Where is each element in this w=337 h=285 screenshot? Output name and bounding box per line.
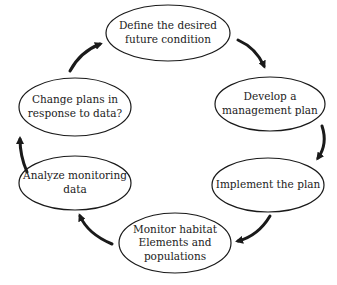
node-monitor-label: Monitor habitat Elements and populations bbox=[119, 213, 231, 273]
node-develop-label: Develop a management plan bbox=[215, 77, 325, 131]
node-define-label: Define the desired future condition bbox=[106, 5, 230, 61]
node-implement-label: Implement the plan bbox=[212, 158, 324, 212]
arrow-change-to-define bbox=[70, 44, 100, 71]
arrow-define-to-develop bbox=[238, 40, 264, 66]
node-analyze-label: Analyze monitoring data bbox=[19, 156, 131, 210]
arrow-implement-to-monitor bbox=[238, 216, 270, 241]
node-change-label: Change plans in response to data? bbox=[19, 78, 131, 136]
cycle-diagram: Define the desired future condition Deve… bbox=[0, 0, 337, 285]
arrow-monitor-to-analyze bbox=[80, 216, 112, 244]
